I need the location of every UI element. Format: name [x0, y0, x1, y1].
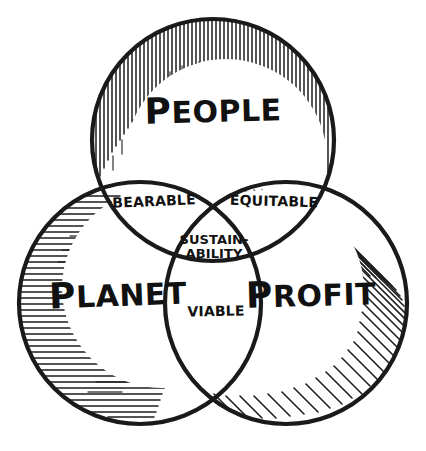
equitable-intersection-label: EQUITABLE	[218, 193, 330, 210]
sustainability-label-line-1: SUSTAIN-	[168, 233, 260, 247]
planet-label-initial: P	[48, 275, 76, 317]
planet-circle-label: PLANET	[37, 273, 198, 315]
planet-label-rest: LANET	[75, 275, 187, 314]
sustainability-intersection-label: SUSTAIN- ABILITY	[168, 233, 260, 260]
profit-label-rest: ROFIT	[272, 276, 376, 314]
sustainability-label-line-2: ABILITY	[168, 247, 260, 261]
people-circle-label: PEOPLE	[133, 90, 294, 130]
viable-intersection-label: VIABLE	[176, 303, 256, 318]
people-label-rest: EOPLE	[171, 92, 282, 130]
sustainability-venn-diagram: PEOPLE PLANET PROFIT BEARABLE EQUITABLE …	[0, 0, 426, 451]
people-circle-outline	[92, 19, 334, 261]
bearable-intersection-label: BEARABLE	[104, 192, 205, 210]
people-label-initial: P	[144, 90, 172, 132]
venn-circles-graphic	[0, 0, 426, 451]
